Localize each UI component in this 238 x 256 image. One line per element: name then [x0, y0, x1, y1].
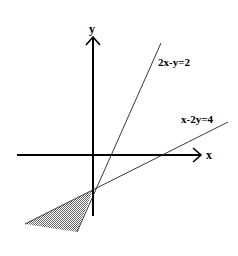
- line-x-2y-4: [25, 122, 228, 224]
- line-label-2x-y-2: 2x-y=2: [158, 56, 190, 68]
- shaded-region: [25, 190, 93, 232]
- line-2x-y-2: [77, 43, 161, 232]
- y-axis: [86, 37, 100, 216]
- x-axis-label: x: [206, 148, 212, 162]
- inequality-graph: y x 2x-y=2 x-2y=4: [0, 0, 238, 256]
- y-axis-label: y: [89, 22, 95, 36]
- line-label-x-2y-4: x-2y=4: [181, 113, 213, 125]
